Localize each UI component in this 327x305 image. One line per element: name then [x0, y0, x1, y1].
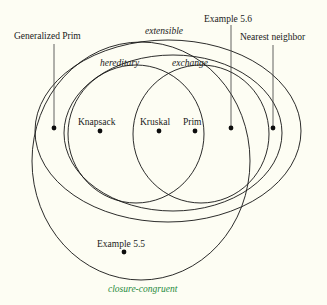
point-label-example-55: Example 5.5	[97, 240, 145, 250]
point-dot-example-56	[229, 126, 234, 131]
point-dot-nearest-neighbor	[271, 126, 276, 131]
point-label-kruskal: Kruskal	[140, 118, 170, 128]
point-dot-prim	[193, 129, 198, 134]
point-dot-generalized-prim	[52, 126, 57, 131]
point-label-nearest-neighbor: Nearest neighbor	[240, 33, 305, 43]
point-dot-example-55	[122, 250, 127, 255]
set-label-closure-congruent: closure-congruent	[108, 285, 177, 295]
point-label-knapsack: Knapsack	[78, 118, 115, 128]
set-label-extensible: extensible	[145, 27, 183, 37]
set-label-exchange: exchange	[172, 59, 208, 69]
ellipse-inner-right-outer	[64, 55, 282, 211]
point-label-prim: Prim	[183, 118, 201, 128]
point-label-generalized-prim: Generalized Prim	[14, 32, 81, 42]
euler-diagram-figure: extensible hereditary exchange closure-c…	[0, 0, 327, 305]
point-dot-knapsack	[98, 129, 103, 134]
diagram-canvas	[0, 0, 327, 305]
set-label-hereditary: hereditary	[100, 59, 139, 69]
point-label-example-56: Example 5.6	[204, 15, 252, 25]
point-dot-kruskal	[157, 129, 162, 134]
